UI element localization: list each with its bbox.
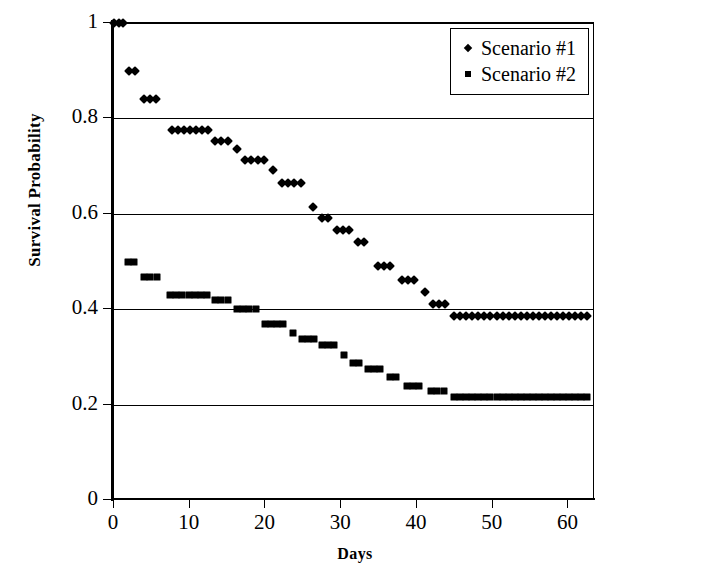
- data-point-diamond: [203, 125, 213, 135]
- diamond-marker-icon: [459, 45, 477, 51]
- data-point-square: [154, 274, 161, 281]
- gridline-0.4: [114, 309, 593, 310]
- legend-item-scenario-1: Scenario #1: [459, 35, 580, 61]
- data-point-diamond: [259, 155, 269, 165]
- chart-figure: Scenario #1 Scenario #2 00.20.40.60.81 0…: [0, 0, 710, 588]
- y-tick-label: 0: [8, 488, 98, 509]
- scan-artifact-strip: [0, 575, 710, 588]
- x-tick-label: 0: [83, 512, 143, 533]
- data-point-diamond: [344, 226, 354, 236]
- y-tick: [103, 22, 113, 23]
- data-point-diamond: [440, 299, 450, 309]
- gridline-0.6: [114, 214, 593, 215]
- data-point-square: [392, 373, 399, 380]
- y-tick-label: 0.8: [8, 106, 98, 127]
- y-tick-label: 0.6: [8, 202, 98, 223]
- data-point-diamond: [582, 311, 592, 321]
- square-marker-icon: [459, 71, 477, 77]
- data-point-square: [376, 365, 383, 372]
- y-tick: [103, 213, 113, 214]
- x-tick: [567, 499, 568, 508]
- data-point-square: [224, 296, 231, 303]
- plot-area: Scenario #1 Scenario #2: [113, 22, 594, 499]
- data-point-square: [131, 258, 138, 265]
- data-point-diamond: [130, 66, 140, 76]
- data-point-square: [252, 306, 259, 313]
- x-tick: [264, 499, 265, 508]
- x-tick: [189, 499, 190, 508]
- x-tick: [113, 499, 114, 508]
- y-tick: [103, 117, 113, 118]
- gridline-1: [114, 23, 593, 24]
- data-point-diamond: [308, 202, 318, 212]
- data-point-diamond: [223, 136, 233, 146]
- data-point-square: [440, 388, 447, 395]
- x-tick-label: 40: [386, 512, 446, 533]
- gridline-0.8: [114, 118, 593, 119]
- x-tick-label: 50: [462, 512, 522, 533]
- y-tick-label: 1: [8, 11, 98, 32]
- x-tick: [492, 499, 493, 508]
- data-point-square: [204, 291, 211, 298]
- data-point-diamond: [232, 144, 242, 154]
- x-tick-label: 60: [537, 512, 597, 533]
- x-tick-label: 10: [159, 512, 219, 533]
- x-tick-label: 20: [234, 512, 294, 533]
- gridline-0.2: [114, 405, 593, 406]
- y-tick-label: 0.2: [8, 393, 98, 414]
- y-axis-line: [111, 20, 113, 501]
- data-point-diamond: [151, 94, 161, 104]
- data-point-square: [355, 359, 362, 366]
- data-point-diamond: [359, 237, 369, 247]
- y-tick-label: 0.4: [8, 297, 98, 318]
- data-point-diamond: [268, 165, 278, 175]
- x-tick: [340, 499, 341, 508]
- data-point-square: [416, 382, 423, 389]
- legend-item-scenario-2: Scenario #2: [459, 61, 580, 87]
- y-tick: [103, 404, 113, 405]
- data-point-square: [330, 341, 337, 348]
- data-point-diamond: [296, 178, 306, 188]
- data-point-square: [289, 330, 296, 337]
- x-tick-label: 30: [310, 512, 370, 533]
- data-point-square: [340, 351, 347, 358]
- legend-label: Scenario #1: [477, 38, 576, 58]
- x-axis-title: Days: [0, 545, 710, 563]
- data-point-square: [279, 321, 286, 328]
- x-tick: [416, 499, 417, 508]
- data-point-square: [584, 394, 591, 401]
- y-axis-title: Survival Probability: [25, 80, 45, 300]
- y-tick: [103, 308, 113, 309]
- legend-label: Scenario #2: [477, 64, 576, 84]
- legend: Scenario #1 Scenario #2: [450, 28, 589, 95]
- y-tick: [103, 499, 113, 500]
- data-point-diamond: [386, 261, 396, 271]
- data-point-diamond: [409, 275, 419, 285]
- x-axis-line: [111, 498, 595, 500]
- data-point-square: [310, 335, 317, 342]
- data-point-diamond: [420, 287, 430, 297]
